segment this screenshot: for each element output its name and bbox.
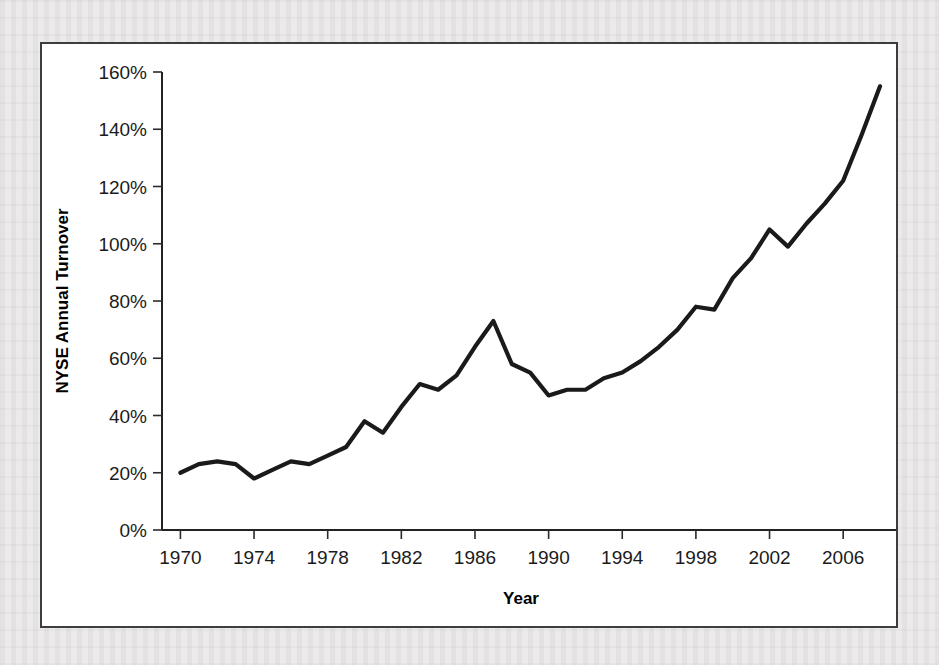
x-tick-label: 1970 <box>159 547 201 568</box>
x-tick-label: 2002 <box>748 547 790 568</box>
x-axis-title: Year <box>503 589 539 608</box>
x-tick-label: 1990 <box>527 547 569 568</box>
x-tick-label: 1994 <box>601 547 644 568</box>
x-tick-label: 1974 <box>233 547 276 568</box>
y-tick-label: 80% <box>109 291 147 312</box>
line-chart: 0%20%40%60%80%100%120%140%160%1970197419… <box>42 44 896 626</box>
x-tick-label: 1982 <box>380 547 422 568</box>
y-tick-label: 120% <box>98 177 147 198</box>
y-tick-label: 20% <box>109 463 147 484</box>
data-series-line <box>180 86 880 478</box>
y-tick-label: 60% <box>109 348 147 369</box>
y-axis-title: NYSE Annual Turnover <box>53 208 72 394</box>
y-tick-label: 100% <box>98 234 147 255</box>
x-tick-label: 1978 <box>307 547 349 568</box>
x-tick-label: 1998 <box>675 547 717 568</box>
x-tick-label: 2006 <box>822 547 864 568</box>
y-tick-label: 140% <box>98 119 147 140</box>
x-tick-label: 1986 <box>454 547 496 568</box>
y-tick-label: 40% <box>109 406 147 427</box>
y-tick-label: 160% <box>98 62 147 83</box>
figure-frame: 0%20%40%60%80%100%120%140%160%1970197419… <box>40 42 898 628</box>
y-tick-label: 0% <box>120 520 148 541</box>
